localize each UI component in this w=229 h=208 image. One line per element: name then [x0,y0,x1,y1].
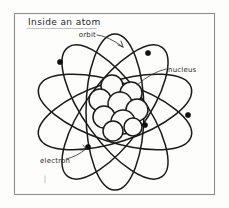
electron-dot [185,112,190,117]
nucleon [124,118,142,136]
nucleus-label: nucleus [168,66,197,74]
electron-dot [57,59,62,64]
atom-diagram-canvas: Inside an atom [0,0,229,208]
electron-label: electron [40,157,70,165]
page-title: Inside an atom [28,17,101,27]
orbit-label: orbit [79,31,96,39]
nucleon [103,121,123,141]
sketch-page: Inside an atom [0,0,229,208]
electron-dot [142,122,147,127]
electron-dot [145,50,150,55]
